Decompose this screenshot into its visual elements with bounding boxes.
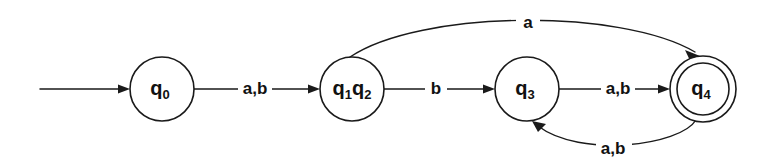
- start-arrow-head: [118, 85, 130, 94]
- state-q1q2-label-main-b: q: [352, 77, 364, 99]
- transition-q1q2-to-q3: b: [384, 78, 495, 100]
- state-q4-label-main: q: [691, 77, 703, 99]
- state-q0-label-sub: 0: [162, 87, 169, 102]
- automaton-diagram: a,b b a,b a a,b: [0, 0, 768, 167]
- state-node-q4[interactable]: q4: [670, 56, 736, 122]
- q1q2-to-q3-arrow-head: [483, 85, 495, 94]
- state-q0-label-main: q: [150, 77, 162, 99]
- transition-q1q2-to-q4-arc: a: [350, 12, 700, 61]
- q3-to-q4-arrow-head: [658, 85, 670, 94]
- state-node-q1q2[interactable]: q1q2: [320, 57, 384, 121]
- transition-start-arrow: [40, 85, 130, 94]
- state-diagram-svg: a,b b a,b a a,b: [0, 0, 768, 167]
- transition-q3-to-q4: a,b: [559, 78, 670, 100]
- state-q1q2-label-sub-a: 1: [345, 87, 352, 102]
- state-q3-label-sub: 3: [527, 87, 534, 102]
- transition-label-q4-q3: a,b: [601, 139, 626, 158]
- state-q1q2-label-main-a: q: [333, 77, 345, 99]
- transition-label-q1q2-q4: a: [523, 13, 533, 32]
- state-node-q0[interactable]: q0: [130, 57, 194, 121]
- transition-label-q0-q1q2: a,b: [243, 79, 268, 98]
- q0-to-q1q2-arrow-head: [308, 85, 320, 94]
- state-node-q3[interactable]: q3: [495, 57, 559, 121]
- state-q4-label-sub: 4: [703, 87, 711, 102]
- state-q3-label-main: q: [515, 77, 527, 99]
- transition-q4-to-q3-arc: a,b: [532, 120, 696, 160]
- state-q1q2-label-sub-b: 2: [364, 87, 371, 102]
- transition-label-q3-q4: a,b: [606, 79, 631, 98]
- transition-q0-to-q1q2: a,b: [194, 78, 320, 100]
- transition-label-q1q2-q3: b: [431, 79, 441, 98]
